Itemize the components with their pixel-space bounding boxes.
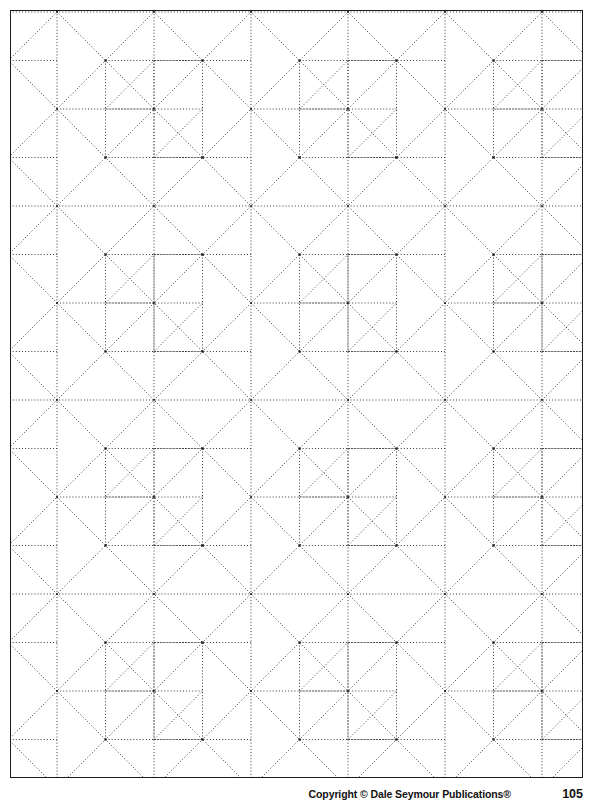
pattern-frame [10, 10, 583, 778]
tessellation-drawing [10, 10, 583, 778]
page-footer: Copyright © Dale Seymour Publications® 1… [10, 786, 583, 802]
worksheet-page: Copyright © Dale Seymour Publications® 1… [0, 0, 598, 806]
copyright-notice: Copyright © Dale Seymour Publications® [309, 788, 511, 800]
page-number: 105 [557, 787, 583, 801]
